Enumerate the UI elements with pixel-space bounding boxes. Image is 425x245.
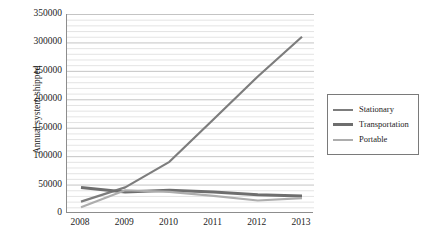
- legend-item-label: Transportation: [359, 120, 409, 129]
- legend-item[interactable]: Portable: [333, 132, 412, 147]
- legend-line-icon: [333, 109, 353, 111]
- x-axis-tick-label: 2012: [247, 218, 266, 228]
- y-axis-tick-label: 50000: [38, 180, 62, 190]
- x-axis-tick-label: 2008: [71, 218, 90, 228]
- gridlines-minor: [67, 20, 314, 208]
- gridlines-major: [67, 15, 314, 214]
- legend-item[interactable]: Stationary: [333, 102, 412, 117]
- y-axis-tick-label: 250000: [34, 66, 63, 76]
- x-axis-tick-label: 2009: [115, 218, 134, 228]
- legend-line-icon: [333, 123, 353, 126]
- x-axis-tick-labels: 200820092010201120122013: [66, 218, 313, 234]
- y-axis-tick-label: 200000: [34, 95, 63, 105]
- plot-area: [66, 14, 313, 213]
- x-axis-tick-label: 2013: [292, 218, 311, 228]
- legend-line-icon: [333, 139, 353, 141]
- plot-svg: [67, 14, 314, 213]
- y-axis-tick-labels: 0500001000001500002000002500003000003500…: [8, 14, 62, 213]
- chart-legend: StationaryTransportationPortable: [327, 94, 419, 155]
- x-axis-tick-label: 2010: [159, 218, 178, 228]
- y-axis-tick-label: 350000: [34, 9, 63, 19]
- legend-item[interactable]: Transportation: [333, 117, 412, 132]
- y-axis-tick-label: 0: [57, 208, 62, 218]
- y-axis-tick-label: 150000: [34, 123, 63, 133]
- legend-item-label: Stationary: [359, 105, 394, 114]
- y-axis-tick-label: 100000: [34, 151, 63, 161]
- series-line: [81, 37, 302, 202]
- y-axis-tick-label: 300000: [34, 38, 63, 48]
- series-line: [81, 190, 302, 207]
- x-axis-tick-label: 2011: [203, 218, 222, 228]
- series-lines: [81, 37, 302, 208]
- line-chart: Annual system shipped 050000100000150000…: [0, 0, 425, 245]
- legend-item-label: Portable: [359, 135, 387, 144]
